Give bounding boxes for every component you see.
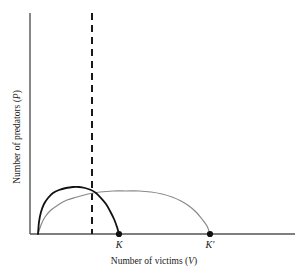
x-axis-label-prefix: Number of victims ( xyxy=(111,256,188,266)
victim-isocline-high-k-curve xyxy=(38,191,210,234)
tick-label-k-prime: K′ xyxy=(205,239,216,250)
endpoint-dot-k-prime xyxy=(207,231,213,237)
figure-container: K K′ Number of predators (P) Number of v… xyxy=(0,0,308,277)
x-axis-label-suffix: ) xyxy=(194,256,197,266)
tick-label-k: K xyxy=(115,239,124,250)
x-axis-label: Number of victims (V) xyxy=(0,256,308,266)
predator-prey-isocline-chart: K K′ xyxy=(0,0,308,277)
endpoint-dot-k xyxy=(116,231,122,237)
